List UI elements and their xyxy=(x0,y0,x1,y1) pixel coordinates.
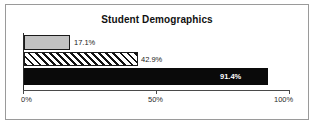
x-axis-tick-100 xyxy=(289,91,290,94)
bar-label-series-3: 91.4% xyxy=(220,73,241,81)
chart-title: Student Demographics xyxy=(6,14,308,25)
bar-label-series-1: 17.1% xyxy=(74,39,95,47)
bar-label-series-2: 42.9% xyxy=(141,56,162,64)
x-axis-tick-50 xyxy=(156,91,157,94)
plot-area: 0% 50% 100% 17.1% 42.9% 91.4% xyxy=(23,33,293,93)
x-axis-tick-0 xyxy=(23,91,24,94)
bar-series-1[interactable] xyxy=(24,35,70,50)
x-axis-label-50: 50% xyxy=(148,95,163,104)
chart-frame: Student Demographics 0% 50% 100% 17.1% 4… xyxy=(5,4,309,120)
x-axis-label-100: 100% xyxy=(274,95,293,104)
x-axis-label-0: 0% xyxy=(21,95,32,104)
bar-series-2[interactable] xyxy=(24,52,138,66)
